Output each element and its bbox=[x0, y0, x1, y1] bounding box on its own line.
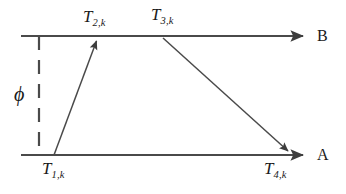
timeline-a-label: A bbox=[317, 147, 329, 163]
message-arrow-b-to-a bbox=[163, 38, 288, 151]
timing-diagram-figure: T2,k T3,k T1,k T4,k ϕ B A bbox=[0, 0, 346, 194]
phi-symbol-label: ϕ bbox=[14, 84, 24, 104]
message-arrow-a-to-b bbox=[54, 41, 97, 155]
event-label-T3-subscript: 3,k bbox=[160, 15, 173, 26]
event-label-T4: T4,k bbox=[264, 160, 287, 177]
event-label-T2: T2,k bbox=[83, 8, 106, 25]
event-label-T2-subscript: 2,k bbox=[92, 17, 105, 28]
event-label-T1: T1,k bbox=[42, 160, 65, 177]
timeline-b-label: B bbox=[317, 28, 328, 44]
event-label-T4-subscript: 4,k bbox=[273, 169, 286, 180]
event-label-T1-subscript: 1,k bbox=[51, 169, 64, 180]
event-label-T3: T3,k bbox=[151, 6, 174, 23]
